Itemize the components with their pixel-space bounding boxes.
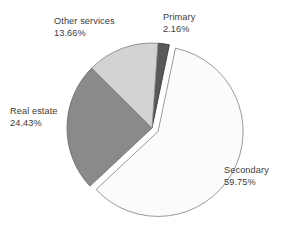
pie-chart-figure: Other services 13.66% Primary 2.16% Real…	[0, 0, 289, 225]
slice-label-primary: Primary 2.16%	[163, 12, 195, 35]
slice-label-primary-percent: 2.16%	[163, 24, 195, 36]
slice-label-secondary: Secondary 59.75%	[224, 165, 269, 188]
slice-label-other-services: Other services 13.66%	[54, 16, 115, 39]
slice-label-other-services-name: Other services	[54, 16, 115, 26]
slice-label-secondary-percent: 59.75%	[224, 177, 269, 189]
slice-label-real-estate-name: Real estate	[10, 106, 58, 116]
slice-label-real-estate: Real estate 24.43%	[10, 106, 58, 129]
slice-label-other-services-percent: 13.66%	[54, 28, 115, 40]
slice-label-secondary-name: Secondary	[224, 165, 269, 175]
slice-label-primary-name: Primary	[163, 12, 195, 22]
pie-slices-group	[67, 43, 243, 216]
slice-label-real-estate-percent: 24.43%	[10, 118, 58, 130]
